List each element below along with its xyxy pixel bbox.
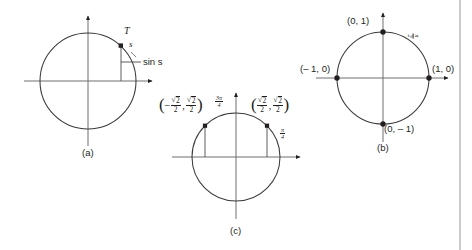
panel-a-caption: (a) xyxy=(82,148,94,158)
fraction-denominator: 2 xyxy=(276,106,280,114)
panel-a-group xyxy=(24,16,152,146)
panel-a-sine-label: sin s xyxy=(143,57,163,67)
fraction-denominator: 2 xyxy=(406,34,412,39)
panel-a-point-label-T: T xyxy=(124,26,130,36)
radical-fraction-y: √2 2 xyxy=(186,96,196,114)
panel-b-point-right xyxy=(426,75,431,80)
open-paren: ( xyxy=(159,97,165,112)
comma: , xyxy=(181,101,186,111)
sqrt-radicand: 2 xyxy=(262,96,267,105)
panel-c-label-right-point: ( √2 2 , √2 2 ) xyxy=(251,96,289,114)
panel-b-group xyxy=(316,13,448,142)
fraction-denominator: 2 xyxy=(190,106,194,114)
minus-sign: – xyxy=(165,100,171,110)
fraction-denominator: 2 xyxy=(260,106,264,114)
panel-b-caption: (b) xyxy=(377,143,389,153)
panel-b-label-top: (0, 1) xyxy=(347,16,369,26)
panel-c-label-left-point: ( – √2 2 , √2 2 ) xyxy=(159,96,203,114)
radical-fraction-y: √2 2 xyxy=(273,96,283,114)
fraction-pi-over-4: π 4 xyxy=(280,127,285,141)
panel-b-point-left xyxy=(334,75,339,80)
sqrt-radicand: 2 xyxy=(191,96,196,105)
close-paren: ) xyxy=(197,97,203,112)
panel-b-label-left: (– 1, 0) xyxy=(300,64,330,74)
panel-a-arc-leader xyxy=(131,52,136,57)
fraction-denominator: 4 xyxy=(215,102,223,108)
panel-b-point-top xyxy=(380,29,385,34)
panel-a-point-T-marker xyxy=(119,43,123,47)
panel-c-point-left-marker xyxy=(203,124,207,128)
fraction-denominator: 2 xyxy=(174,106,178,114)
panel-a-arc-label-s: s xyxy=(129,40,133,49)
radical-fraction-x: √2 2 xyxy=(171,96,181,114)
panel-c-angle-label-3pi-over-4: 3π 4 xyxy=(215,92,223,108)
close-paren: ) xyxy=(283,97,289,112)
sqrt-radicand: 2 xyxy=(176,96,181,105)
fraction-numerator: π xyxy=(280,127,285,134)
comma: , xyxy=(268,101,273,111)
fraction-denominator: 4 xyxy=(280,134,285,140)
panel-b-angle-label-pi-over-2: π 2 xyxy=(406,34,422,39)
panel-c-caption: (c) xyxy=(230,226,241,236)
panel-b-label-right: (1, 0) xyxy=(432,64,454,74)
fraction-numerator: 3π xyxy=(215,95,223,102)
panel-c-angle-label-pi-over-4: π 4 xyxy=(280,124,285,140)
fraction-3pi-over-4: 3π 4 xyxy=(215,95,223,109)
fraction-pi-over-2: π 2 xyxy=(406,34,420,39)
figure-root: T s sin s (a) (0, 1) (1, 0) (– 1, 0) (0,… xyxy=(0,0,472,250)
fraction-numerator: π xyxy=(413,34,420,39)
panel-c-point-right-marker xyxy=(265,124,269,128)
sqrt-radicand: 2 xyxy=(278,96,283,105)
radical-fraction-x: √2 2 xyxy=(257,96,267,114)
panel-b-label-bottom: (0, – 1) xyxy=(384,124,414,134)
open-paren: ( xyxy=(251,97,257,112)
